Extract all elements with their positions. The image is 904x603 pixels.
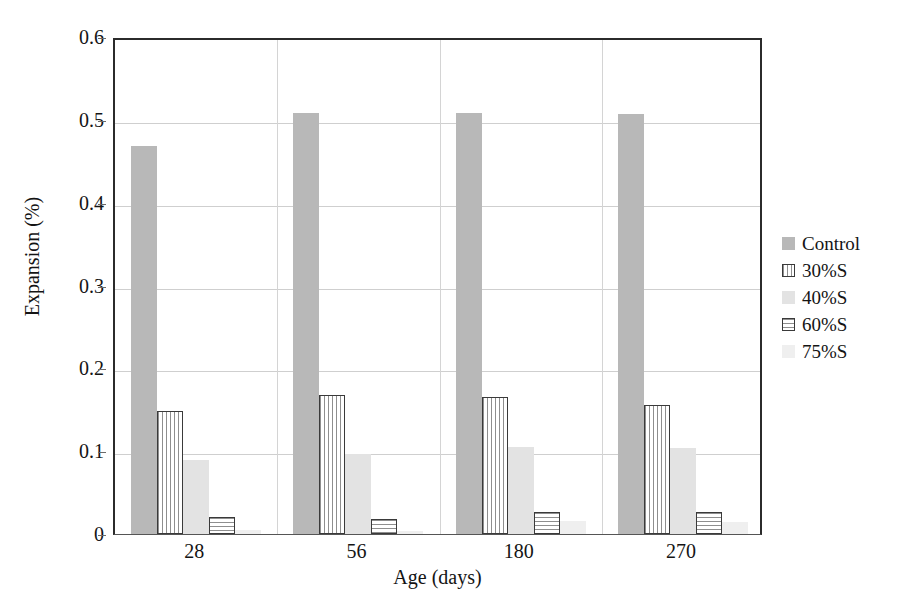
legend-swatch-icon-60pcts <box>782 318 795 331</box>
bar-75pcts-270 <box>722 522 748 534</box>
legend-swatch-icon-30pcts <box>782 264 795 277</box>
y-tick-mark-0.5 <box>98 121 106 122</box>
expansion-vs-age-bar-chart: Expansion (%) 00.10.20.30.40.50.6 285618… <box>0 0 904 603</box>
legend: Control30%S40%S60%S75%S <box>782 230 902 365</box>
x-tick-label-56: 56 <box>346 540 366 563</box>
legend-item-75pcts[interactable]: 75%S <box>782 338 902 365</box>
legend-label: 60%S <box>802 315 847 334</box>
y-tick-mark-0.4 <box>98 204 106 205</box>
legend-item-control[interactable]: Control <box>782 230 902 257</box>
bar-40pcts-28 <box>183 460 209 534</box>
legend-swatch-icon-control <box>782 237 795 250</box>
legend-item-30pcts[interactable]: 30%S <box>782 257 902 284</box>
legend-label: 75%S <box>802 342 847 361</box>
x-tick-label-270: 270 <box>666 540 696 563</box>
y-tick-mark-0.2 <box>98 369 106 370</box>
bar-control-28 <box>131 146 157 534</box>
bar-group-180 <box>440 40 602 534</box>
y-tick-mark-0.1 <box>98 452 106 453</box>
bar-control-270 <box>618 114 644 534</box>
legend-item-40pcts[interactable]: 40%S <box>782 284 902 311</box>
x-tick-label-28: 28 <box>184 540 204 563</box>
bar-75pcts-56 <box>397 531 423 534</box>
legend-swatch-icon-40pcts <box>782 291 795 304</box>
bar-75pcts-180 <box>560 521 586 534</box>
y-tick-label-0.2: 0.2 <box>8 358 104 378</box>
bar-group-28 <box>115 40 277 534</box>
y-tick-label-0.6: 0.6 <box>8 27 104 47</box>
legend-item-60pcts[interactable]: 60%S <box>782 311 902 338</box>
y-tick-mark-0.6 <box>98 38 106 39</box>
legend-label: Control <box>802 234 860 253</box>
bar-30pcts-270 <box>644 405 670 534</box>
bar-40pcts-180 <box>508 447 534 534</box>
bar-control-56 <box>293 113 319 534</box>
y-axis-tick-labels: 00.10.20.30.40.50.6 <box>0 38 104 535</box>
y-tick-label-0: 0 <box>8 524 104 544</box>
legend-swatch-icon-75pcts <box>782 345 795 358</box>
bar-75pcts-28 <box>235 530 261 534</box>
bar-group-270 <box>602 40 764 534</box>
y-tick-label-0.5: 0.5 <box>8 110 104 130</box>
bar-30pcts-180 <box>482 397 508 535</box>
bar-30pcts-28 <box>157 411 183 534</box>
y-tick-label-0.1: 0.1 <box>8 441 104 461</box>
legend-label: 30%S <box>802 261 847 280</box>
bar-30pcts-56 <box>319 395 345 534</box>
bar-60pcts-56 <box>371 519 397 534</box>
bar-60pcts-28 <box>209 517 235 534</box>
plot-area <box>113 38 762 535</box>
bar-60pcts-180 <box>534 512 560 534</box>
bar-group-56 <box>277 40 439 534</box>
bar-60pcts-270 <box>696 512 722 534</box>
y-tick-mark-0.3 <box>98 287 106 288</box>
y-tick-label-0.3: 0.3 <box>8 276 104 296</box>
x-tick-label-180: 180 <box>504 540 534 563</box>
bar-40pcts-56 <box>345 454 371 534</box>
y-tick-label-0.4: 0.4 <box>8 193 104 213</box>
y-tick-mark-0 <box>98 535 106 536</box>
x-axis-title: Age (days) <box>113 566 762 589</box>
bar-40pcts-270 <box>670 448 696 534</box>
legend-label: 40%S <box>802 288 847 307</box>
bar-control-180 <box>456 113 482 534</box>
